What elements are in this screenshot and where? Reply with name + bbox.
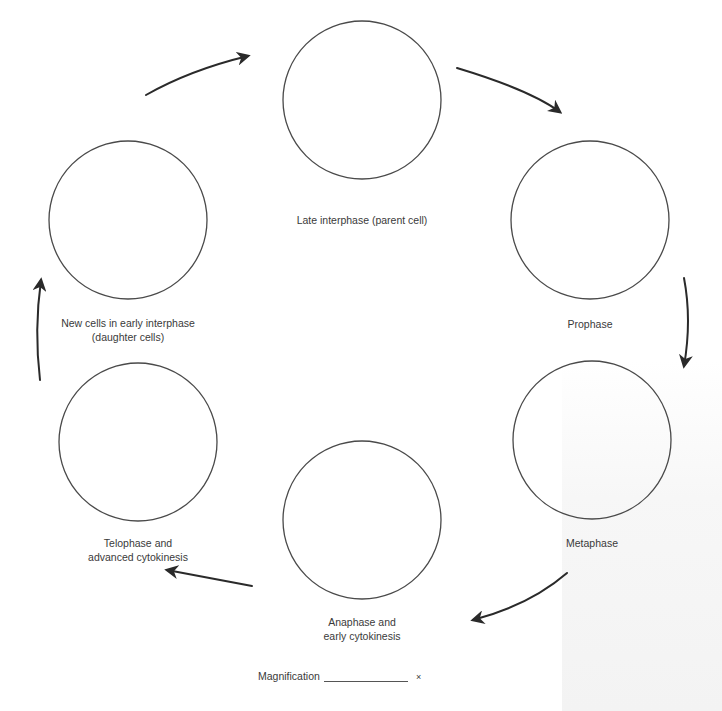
label-anaphase-line2: early cytokinesis xyxy=(323,629,400,643)
label-telophase-line2: advanced cytokinesis xyxy=(88,550,188,564)
label-anaphase: Anaphase and early cytokinesis xyxy=(323,615,400,643)
magnification-label: Magnification xyxy=(258,670,320,682)
cell-circle-telophase[interactable] xyxy=(59,363,217,521)
arrow-anaphase-to-telophase-icon xyxy=(167,570,252,586)
cell-circle-anaphase[interactable] xyxy=(283,441,441,599)
mitosis-cycle-diagram xyxy=(0,0,722,711)
arrow-prophase-to-metaphase-icon xyxy=(684,278,688,366)
label-telophase-line1: Telophase and xyxy=(88,536,188,550)
label-new-cells-line2: (daughter cells) xyxy=(61,330,195,344)
cell-circle-late-interphase[interactable] xyxy=(283,21,441,179)
label-late-interphase: Late interphase (parent cell) xyxy=(297,213,428,227)
cell-circle-metaphase[interactable] xyxy=(513,361,671,519)
label-telophase: Telophase and advanced cytokinesis xyxy=(88,536,188,564)
magnification-blank[interactable] xyxy=(324,670,408,682)
label-anaphase-line1: Anaphase and xyxy=(323,615,400,629)
arrow-metaphase-to-anaphase-icon xyxy=(473,573,567,620)
cell-circle-prophase[interactable] xyxy=(511,141,669,299)
magnification-suffix: × xyxy=(416,672,421,682)
label-new-cells: New cells in early interphase (daughter … xyxy=(61,316,195,344)
label-prophase: Prophase xyxy=(568,317,613,331)
label-metaphase: Metaphase xyxy=(566,536,618,550)
arrow-telophase-to-newcells-icon xyxy=(37,280,41,380)
arrow-interphase-to-prophase-icon xyxy=(457,68,560,112)
label-new-cells-line1: New cells in early interphase xyxy=(61,316,195,330)
magnification-field: Magnification × xyxy=(258,670,421,682)
cell-circle-new-cells[interactable] xyxy=(49,141,207,299)
arrow-newcells-to-interphase-icon xyxy=(146,56,248,95)
